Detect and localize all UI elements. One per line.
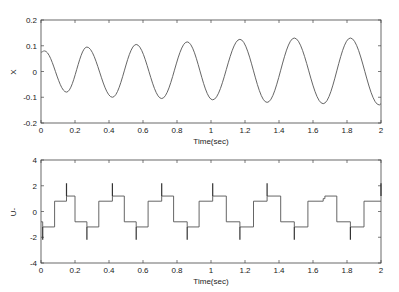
x-tick-label: 1.4: [273, 266, 285, 275]
x-tick-label: 0: [39, 266, 44, 275]
x-signal-line: [41, 38, 381, 105]
y-tick-label: 0.1: [26, 42, 38, 51]
x-tick-label: 0.6: [137, 126, 149, 135]
x-tick-label: 0.8: [171, 126, 183, 135]
chart-figure: 00.20.40.60.811.21.41.61.82 0.20.10-0.1-…: [0, 0, 399, 292]
bottom-axes-frame: [41, 160, 381, 263]
top-axes-frame: [41, 20, 381, 123]
x-tick-label: 1.6: [307, 126, 319, 135]
x-tick-label: 0.2: [69, 126, 81, 135]
y-tick-label: -4: [30, 259, 38, 268]
x-tick-label: 2: [379, 266, 384, 275]
y-tick-label: 2: [33, 182, 38, 191]
bottom-x-axis-label: Time(sec): [193, 277, 229, 286]
y-tick-label: -0.1: [23, 93, 37, 102]
top-axes: 00.20.40.60.811.21.41.61.82 0.20.10-0.1-…: [9, 16, 384, 146]
x-tick-label: 1.4: [273, 126, 285, 135]
top-y-axis-label: X: [9, 69, 18, 75]
x-tick-label: 0.4: [103, 126, 115, 135]
y-tick-label: -0.2: [23, 119, 37, 128]
y-tick-label: -2: [30, 233, 38, 242]
y-tick-label: 0: [33, 68, 38, 77]
bottom-x-ticks: 00.20.40.60.811.21.41.61.82: [39, 160, 384, 275]
x-tick-label: 1.8: [341, 126, 353, 135]
x-tick-label: 1.2: [239, 266, 251, 275]
bottom-axes: 00.20.40.60.811.21.41.61.82 420-2-4 Time…: [9, 156, 384, 286]
x-tick-label: 1.6: [307, 266, 319, 275]
y-tick-label: 0.2: [26, 16, 38, 25]
x-tick-label: 0.2: [69, 266, 81, 275]
x-tick-label: 2: [379, 126, 384, 135]
x-tick-label: 0.4: [103, 266, 115, 275]
control-signal-line: [41, 196, 381, 227]
x-tick-label: 0.6: [137, 266, 149, 275]
top-x-axis-label: Time(sec): [193, 137, 229, 146]
x-tick-label: 1.2: [239, 126, 251, 135]
y-tick-label: 4: [33, 156, 38, 165]
control-spikes: [43, 183, 381, 240]
y-tick-label: 0: [33, 208, 38, 217]
x-tick-label: 1: [209, 126, 214, 135]
bottom-y-ticks: 420-2-4: [30, 156, 381, 268]
top-y-ticks: 0.20.10-0.1-0.2: [23, 16, 381, 128]
x-tick-label: 1: [209, 266, 214, 275]
x-tick-label: 0: [39, 126, 44, 135]
bottom-y-axis-label: U-: [9, 207, 18, 216]
top-x-ticks: 00.20.40.60.811.21.41.61.82: [39, 20, 384, 135]
x-tick-label: 1.8: [341, 266, 353, 275]
x-tick-label: 0.8: [171, 266, 183, 275]
